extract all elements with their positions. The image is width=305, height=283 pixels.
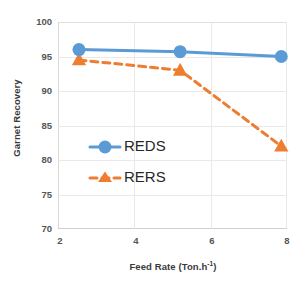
y-tick-label: 95 — [22, 51, 52, 62]
x-tick-label: 4 — [124, 235, 148, 246]
y-tick-label: 85 — [22, 120, 52, 131]
legend-label-reds: REDS — [124, 137, 166, 154]
x-tick-label: 6 — [200, 235, 224, 246]
legend-label-rers: RERS — [124, 168, 166, 185]
y-tick-label: 80 — [22, 154, 52, 165]
y-tick-label: 75 — [22, 189, 52, 200]
y-tick-label: 70 — [22, 223, 52, 234]
y-tick-label: 90 — [22, 85, 52, 96]
plot-area: REDS RERS — [58, 22, 287, 229]
legend-entry-reds[interactable] — [90, 141, 120, 154]
legend — [58, 22, 287, 229]
x-axis-title-text: Feed Rate (Ton.h-1) — [129, 260, 216, 272]
legend-entry-rers[interactable] — [90, 172, 120, 183]
x-axis-title-tail: ) — [213, 261, 216, 272]
x-tick-label: 2 — [48, 235, 72, 246]
x-axis-title-base: Feed Rate (Ton.h — [129, 261, 207, 272]
y-tick-label: 100 — [22, 16, 52, 27]
chart-container: Garnet Recovery Feed Rate (Ton.h-1) 100 … — [0, 0, 305, 283]
y-axis-title-text: Garnet Recovery — [11, 79, 22, 157]
x-axis-title: Feed Rate (Ton.h-1) — [58, 258, 288, 274]
x-tick-label: 8 — [275, 235, 299, 246]
